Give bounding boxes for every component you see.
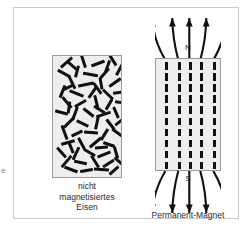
aligned-domain-dash [213, 106, 216, 114]
aligned-domain-dash [200, 118, 203, 126]
magnetic-domain [112, 106, 120, 118]
magnetic-domain [94, 115, 100, 129]
field-arrowhead-icon [186, 18, 193, 27]
magnetic-domain [84, 130, 98, 134]
magnetic-domain [83, 72, 98, 78]
aligned-domain-dash [189, 140, 192, 148]
figure-frame: nicht magnetisiertes Eisen a N S Permane… [13, 7, 239, 219]
aligned-domain-dash [213, 140, 216, 148]
magnetic-domain [76, 119, 89, 127]
magnetic-domain [61, 125, 69, 140]
aligned-domain-dash [165, 62, 168, 70]
aligned-domain-dash [200, 129, 203, 137]
aligned-domain-dash [200, 140, 203, 148]
magnetic-domain [63, 116, 75, 128]
aligned-domain-dash [213, 73, 216, 81]
magnetic-domain [111, 128, 122, 137]
aligned-domain-dash [213, 129, 216, 137]
aligned-domain-dash [178, 118, 181, 126]
aligned-domain-dash [178, 73, 181, 81]
panel-a-caption-line2: magnetisiertes [36, 192, 138, 203]
panel-a-unmagnetized-iron: nicht magnetisiertes Eisen a [52, 55, 122, 178]
magnetic-domain [109, 165, 120, 175]
aligned-domain-dash [165, 140, 168, 148]
aligned-domain-dash [189, 129, 192, 137]
field-line [213, 18, 221, 60]
aligned-domain-dash [200, 162, 203, 170]
aligned-domain-dash [178, 106, 181, 114]
panel-a-caption: nicht magnetisiertes Eisen [36, 181, 138, 213]
aligned-domain-dash [178, 95, 181, 103]
aligned-domain-dash [165, 73, 168, 81]
field-line [200, 18, 206, 60]
aligned-domain-dash [200, 84, 203, 92]
aligned-domain-dash [189, 73, 192, 81]
field-line [172, 18, 178, 60]
aligned-domain-dash [213, 95, 216, 103]
field-arrowhead-icon [169, 18, 176, 27]
field-lines-north-icon [155, 14, 221, 60]
aligned-domain-dash [178, 162, 181, 170]
aligned-domain-dash [200, 95, 203, 103]
aligned-domain-dash [189, 95, 192, 103]
aligned-domain-dash [189, 151, 192, 159]
aligned-domain-dash [165, 162, 168, 170]
aligned-domain-dash [200, 106, 203, 114]
magnetic-domain [91, 60, 105, 68]
aligned-domain-dash [213, 162, 216, 170]
aligned-domain-dash [189, 62, 192, 70]
magnetic-domain [80, 168, 93, 173]
magnetic-domain [74, 160, 87, 166]
aligned-domain-dash [165, 118, 168, 126]
magnetic-domain [82, 107, 94, 117]
magnetic-domain [95, 145, 108, 149]
magnetic-domain [115, 100, 122, 105]
pole-label-north: N [155, 43, 221, 52]
magnetic-domain [56, 147, 67, 159]
magnetic-domain [64, 166, 78, 174]
magnetic-domain [108, 77, 121, 87]
aligned-domain-dash [165, 95, 168, 103]
magnetic-domain [113, 90, 122, 95]
pole-label-south: S [155, 174, 221, 183]
aligned-domain-dash [165, 84, 168, 92]
aligned-domain-dash [178, 129, 181, 137]
aligned-domain-dash [165, 106, 168, 114]
panel-b-caption: Permanent-Magnet [135, 210, 241, 220]
aligned-domain-dash [165, 151, 168, 159]
aligned-domain-dash [200, 62, 203, 70]
panel-a-caption-line3: Eisen [36, 202, 138, 213]
aligned-domain-dash [213, 118, 216, 126]
magnetic-domain [71, 130, 83, 138]
aligned-domain-dash [189, 106, 192, 114]
magnetic-domain [102, 159, 115, 168]
margin-clipped-glyph: e [1, 167, 5, 175]
magnetic-domain [69, 89, 84, 97]
aligned-domain-dash [200, 151, 203, 159]
magnetic-domain [93, 105, 106, 114]
aligned-domain-dash [178, 62, 181, 70]
field-line [155, 18, 165, 60]
aligned-domain-dash [213, 151, 216, 159]
magnetic-domain [80, 55, 87, 68]
magnet-block [155, 58, 221, 171]
panel-b-permanent-magnet: N S Permanent-Magnet b [155, 58, 221, 171]
aligned-domain-dash [200, 73, 203, 81]
aligned-domain-dash [178, 151, 181, 159]
magnetism-figure: e nicht magnetisiertes Eisen a N S Perma… [0, 0, 247, 228]
field-arrowhead-icon [203, 18, 210, 27]
aligned-domain-dash [213, 84, 216, 92]
aligned-domain-dash [189, 162, 192, 170]
aligned-domain-dash [213, 62, 216, 70]
magnetic-domain [67, 141, 74, 153]
magnetic-domain [94, 167, 109, 171]
aligned-domain-dash [178, 84, 181, 92]
aligned-domain-dash [165, 129, 168, 137]
magnetic-domain [97, 150, 111, 158]
iron-block [52, 55, 122, 178]
panel-a-caption-line1: nicht [36, 181, 138, 192]
aligned-domain-dash [178, 140, 181, 148]
field-arrowhead-icon [155, 18, 156, 27]
magnetic-domain [78, 81, 94, 87]
aligned-domain-dash [189, 84, 192, 92]
